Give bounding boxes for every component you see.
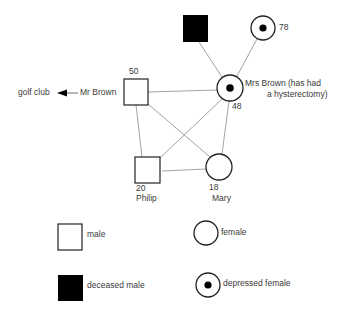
genogram-canvas xyxy=(0,0,344,317)
mrs-brown-symbol xyxy=(217,75,243,101)
legend-deceased-male-icon xyxy=(58,275,83,301)
mrs-brown-name-line2: a hysterectomy) xyxy=(262,90,344,100)
philip-name: Philip xyxy=(136,194,157,204)
mrs-brown-age: 48 xyxy=(232,102,241,112)
edge-philip-mary xyxy=(162,169,206,171)
edge-mrbrown-philip xyxy=(136,105,142,157)
legend-male-icon xyxy=(58,224,82,250)
edge-mrbrown-mrsbrown xyxy=(148,90,217,92)
grandmother-symbol xyxy=(251,16,275,40)
legend-depressed-female-label: depressed female xyxy=(223,279,291,289)
legend-female-icon xyxy=(194,221,218,245)
edge-grandmother-mrsbrown xyxy=(237,39,257,76)
mr-brown-age: 50 xyxy=(129,67,138,77)
edge-mrbrown-mary xyxy=(148,104,210,157)
mary-symbol xyxy=(206,154,232,180)
legend-male-label: male xyxy=(87,230,105,240)
golf-club-label: golf club xyxy=(18,88,50,98)
edge-deceased-mrsbrown xyxy=(199,42,222,77)
mary-age: 18 xyxy=(209,183,218,193)
philip-symbol xyxy=(135,157,160,183)
edge-mrsbrown-philip xyxy=(160,99,222,158)
arrow-icon xyxy=(57,90,78,97)
legend-depressed-female-icon xyxy=(196,273,220,297)
legend-deceased-male-label: deceased male xyxy=(87,281,145,291)
mrs-brown-name-line1: Mrs Brown (has had xyxy=(245,79,321,89)
legend-female-label: female xyxy=(221,228,247,238)
mr-brown-symbol xyxy=(124,79,148,105)
mr-brown-name: Mr Brown xyxy=(80,88,116,98)
grandmother-age: 78 xyxy=(279,23,288,33)
edge-mrsbrown-mary xyxy=(222,101,229,154)
deceased-male-symbol xyxy=(183,15,208,42)
mary-name: Mary xyxy=(212,194,231,204)
